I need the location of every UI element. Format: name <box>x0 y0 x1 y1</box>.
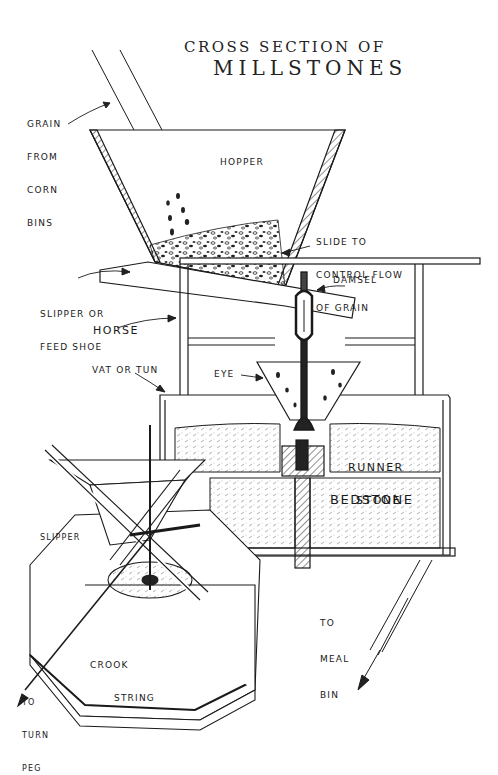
label-line: RUNNER <box>348 462 404 473</box>
label-line: TO <box>22 697 49 708</box>
label-slipper: SLIPPER <box>40 532 81 543</box>
label-line: SLIDE TO <box>316 237 403 248</box>
diagram-title-line1: CROSS SECTION OF <box>184 38 386 56</box>
label-line: TURN <box>22 730 49 741</box>
label-line: FEED SHOE <box>40 342 104 353</box>
label-line: OF GRAIN <box>316 303 403 314</box>
label-horse: HORSE <box>93 325 139 336</box>
label-line: BIN <box>320 690 349 701</box>
label-line: STRING <box>90 693 155 704</box>
diagram-title-line2: MILLSTONES <box>213 56 407 80</box>
label-to-meal-bin: TO MEAL BIN <box>320 596 349 712</box>
label-to-turn-peg: TO TURN PEG <box>22 675 49 775</box>
label-eye: EYE <box>214 369 234 380</box>
label-vat-or-tun: VAT OR TUN <box>92 365 158 376</box>
label-line: FROM <box>27 152 61 163</box>
label-line: PEG <box>22 763 49 774</box>
label-slide: SLIDE TO CONTROL FLOW OF GRAIN <box>316 215 403 325</box>
label-line: MEAL <box>320 654 349 665</box>
label-damsel: DAMSEL <box>333 275 377 286</box>
bedstone <box>210 478 440 548</box>
label-crook-string: CROOK STRING <box>90 638 155 715</box>
label-hopper: HOPPER <box>220 157 264 168</box>
label-line: BINS <box>27 218 61 229</box>
label-line: GRAIN <box>27 119 61 130</box>
label-bedstone: BEDSTONE <box>330 494 414 505</box>
meal-bin-chute <box>358 560 432 690</box>
label-line: SLIPPER OR <box>40 309 104 320</box>
label-line: CROOK <box>90 660 155 671</box>
label-line: TO <box>320 618 349 629</box>
label-grain-from-corn-bins: GRAIN FROM CORN BINS <box>27 97 61 240</box>
label-line: CORN <box>27 185 61 196</box>
